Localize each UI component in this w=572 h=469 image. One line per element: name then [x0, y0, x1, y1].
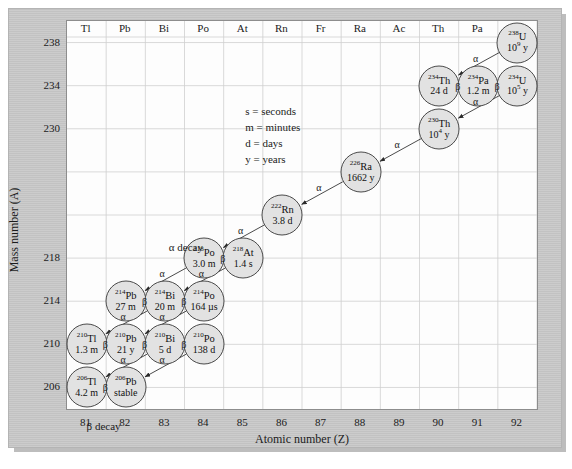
nuclide-bubble-pa234: 234Pa1.2 m: [458, 65, 499, 106]
decay-type-alpha-po218-pb214: α: [160, 268, 165, 279]
decay-type-beta-pb210-bi210: β: [142, 339, 147, 350]
x-tick-87: 87: [315, 416, 326, 428]
decay-type-alpha-at218-bi214: α: [199, 268, 204, 279]
element-symbol-at: At: [237, 22, 248, 34]
y-tick-210: 210: [18, 337, 60, 349]
nuclide-bubble-pb214: 214Pb27 m: [105, 281, 146, 322]
x-tick-92: 92: [511, 416, 522, 428]
legend-line-minutes: m = minutes: [245, 120, 300, 136]
nuclide-halflife-label: 24 d: [430, 86, 448, 96]
decay-type-beta-tl210-pb210: β: [103, 339, 108, 350]
decay-type-beta-bi210-po210: β: [181, 339, 186, 350]
nuclide-bubble-u238: 238U109 y: [497, 22, 538, 63]
decay-type-alpha-bi210-tl206: α: [120, 354, 125, 365]
nuclide-bubble-tl210: 210Tl1.3 m: [66, 324, 107, 365]
decay-type-alpha-u238-th234: α: [473, 52, 478, 63]
element-symbol-fr: Fr: [316, 22, 326, 34]
x-tick-85: 85: [237, 416, 248, 428]
nuclide-halflife-label: 27 m: [116, 301, 136, 311]
x-tick-83: 83: [158, 416, 169, 428]
nuclide-halflife-label: 1.4 s: [234, 258, 253, 268]
y-tick-218: 218: [18, 251, 60, 263]
plot-panel: 238U109 y234Th24 d234Pa1.2 m234U105 y230…: [66, 20, 538, 410]
x-axis-title: Atomic number (Z): [66, 432, 538, 463]
units-legend: s = seconds m = minutes d = days y = yea…: [245, 104, 300, 168]
x-tick-86: 86: [276, 416, 287, 428]
decay-type-alpha-po210-pb206: α: [160, 354, 165, 365]
element-symbol-rn: Rn: [275, 22, 288, 34]
element-symbol-po: Po: [197, 22, 209, 34]
decay-type-alpha-u234-th230: α: [473, 95, 478, 106]
nuclide-bubble-th230: 230Th104 y: [419, 108, 460, 149]
x-tick-84: 84: [198, 416, 209, 428]
decay-type-beta-pa234-u234: β: [495, 80, 500, 91]
nuclide-halflife-label: 1.3 m: [75, 345, 98, 355]
element-symbol-pa: Pa: [472, 22, 483, 34]
nuclide-halflife-label: 138 d: [193, 345, 216, 355]
y-tick-234: 234: [18, 79, 60, 91]
y-tick-214: 214: [18, 294, 60, 306]
nuclide-halflife-label: 3.0 m: [193, 258, 216, 268]
alpha-decay-label: α decay: [169, 241, 203, 253]
y-axis-title: Mass number (A): [7, 188, 22, 273]
element-symbol-bi: Bi: [159, 22, 169, 34]
decay-type-alpha-bi214-tl210: α: [120, 311, 125, 322]
decay-type-beta-th234-pa234: β: [455, 80, 460, 91]
nuclide-bubble-po214: 214Po164 µs: [184, 281, 225, 322]
nuclide-halflife-label: 1662 y: [347, 172, 375, 182]
beta-decay-label: β decay: [87, 420, 121, 432]
nuclide-bubble-th234: 234Th24 d: [419, 65, 460, 106]
element-symbol-th: Th: [432, 22, 444, 34]
decay-series-figure: 238U109 y234Th24 d234Pa1.2 m234U105 y230…: [0, 0, 572, 469]
nuclide-bubble-rn222: 222Rn3.8 d: [262, 195, 303, 236]
element-symbol-ac: Ac: [392, 22, 405, 34]
nuclide-halflife-label: 3.8 d: [272, 215, 292, 225]
x-tick-89: 89: [393, 416, 404, 428]
legend-line-seconds: s = seconds: [245, 104, 300, 120]
y-tick-230: 230: [18, 122, 60, 134]
legend-line-days: d = days: [245, 136, 300, 152]
nuclide-halflife-label: stable: [114, 388, 137, 398]
nuclide-halflife-label: 164 µs: [191, 301, 218, 311]
decay-type-beta-tl206-pb206: β: [103, 382, 108, 393]
element-symbol-ra: Ra: [354, 22, 366, 34]
decay-type-alpha-po214-pb210: α: [160, 311, 165, 322]
x-tick-90: 90: [433, 416, 444, 428]
nuclide-halflife-label: 109 y: [507, 43, 528, 53]
y-tick-238: 238: [18, 36, 60, 48]
nuclide-bubble-po210: 210Po138 d: [184, 324, 225, 365]
nuclide-bubble-bi214: 214Bi20 m: [144, 281, 185, 322]
nuclide-bubble-tl206: 206Tl4.2 m: [66, 367, 107, 408]
decay-type-beta-pb214-bi214: β: [142, 296, 147, 307]
y-tick-206: 206: [18, 380, 60, 392]
nuclide-halflife-label: 1.2 m: [467, 86, 490, 96]
nuclide-bubble-pb206: 206Pbstable: [105, 367, 146, 408]
decay-type-alpha-rn222-po218: α: [238, 225, 243, 236]
nuclide-halflife-label: 20 m: [155, 301, 175, 311]
decay-type-alpha-th230-ra226: α: [395, 138, 400, 149]
element-symbol-pb: Pb: [119, 22, 131, 34]
nuclide-bubble-u234: 234U105 y: [497, 65, 538, 106]
decay-type-alpha-ra226-rn222: α: [316, 181, 321, 192]
nuclide-halflife-label: 4.2 m: [75, 388, 98, 398]
legend-line-years: y = years: [245, 152, 300, 168]
nuclide-bubble-ra226: 226Ra1662 y: [340, 151, 381, 192]
decay-type-beta-po218-at218: β: [220, 253, 225, 264]
nuclide-bubble-at218: 218At1.4 s: [223, 238, 264, 279]
x-tick-88: 88: [354, 416, 365, 428]
nuclide-halflife-label: 104 y: [429, 129, 450, 139]
x-tick-91: 91: [472, 416, 483, 428]
nuclide-bubble-pb210: 210Pb21 y: [105, 324, 146, 365]
element-symbol-tl: Tl: [81, 22, 91, 34]
decay-type-beta-bi214-po214: β: [181, 296, 186, 307]
nuclide-halflife-label: 105 y: [507, 86, 528, 96]
nuclide-bubble-bi210: 210Bi5 d: [144, 324, 185, 365]
